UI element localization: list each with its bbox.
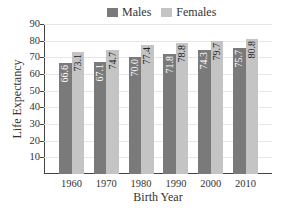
y-tick-label: 50 bbox=[20, 86, 40, 96]
y-tick bbox=[40, 41, 44, 42]
x-tick-label: 2010 bbox=[231, 178, 261, 189]
bar-value-label: 80.8 bbox=[247, 41, 257, 59]
y-tick-label: 30 bbox=[20, 119, 40, 129]
legend-label: Males bbox=[122, 6, 151, 18]
y-tick bbox=[40, 124, 44, 125]
y-tick bbox=[40, 141, 44, 142]
x-axis-title: Birth Year bbox=[44, 191, 272, 204]
x-tick-label: 1990 bbox=[161, 178, 191, 189]
y-tick bbox=[40, 157, 44, 158]
y-tick-label: 80 bbox=[20, 36, 40, 46]
bar-value-label: 66.6 bbox=[60, 65, 70, 83]
bar-females-2010: 80.8 bbox=[246, 39, 259, 174]
bar-males-2010: 75.7 bbox=[233, 48, 246, 174]
y-tick bbox=[40, 24, 44, 25]
bar-females-1970: 74.7 bbox=[106, 50, 119, 175]
x-tick-label: 1980 bbox=[126, 178, 156, 189]
y-tick-label: 70 bbox=[20, 52, 40, 62]
y-tick-label: 20 bbox=[20, 136, 40, 146]
bar-females-1960: 73.1 bbox=[72, 52, 85, 174]
bar-value-label: 79.7 bbox=[212, 43, 222, 61]
gridline bbox=[44, 41, 272, 42]
bar-males-1980: 70.0 bbox=[129, 57, 142, 174]
legend-item-males: Males bbox=[107, 6, 151, 18]
bar-value-label: 74.3 bbox=[199, 52, 209, 70]
gridline bbox=[44, 24, 272, 25]
plot-area: 10203040506070809066.673.167.174.770.077… bbox=[44, 24, 272, 174]
x-tick-label: 1960 bbox=[57, 178, 87, 189]
bar-value-label: 78.8 bbox=[177, 45, 187, 63]
legend-item-females: Females bbox=[161, 6, 216, 18]
bar-value-label: 71.8 bbox=[165, 56, 175, 74]
y-tick-label: 40 bbox=[20, 102, 40, 112]
bar-value-label: 75.7 bbox=[234, 50, 244, 68]
bar-females-2000: 79.7 bbox=[211, 41, 224, 174]
legend-label: Females bbox=[176, 6, 216, 18]
y-tick-label: 60 bbox=[20, 69, 40, 79]
y-tick bbox=[40, 57, 44, 58]
bar-value-label: 67.1 bbox=[95, 64, 105, 82]
bar-males-1970: 67.1 bbox=[94, 62, 107, 174]
y-tick-label: 90 bbox=[20, 19, 40, 29]
y-tick bbox=[40, 74, 44, 75]
bar-males-1990: 71.8 bbox=[163, 54, 176, 174]
x-tick-label: 1970 bbox=[91, 178, 121, 189]
bar-females-1980: 77.4 bbox=[141, 45, 154, 174]
bar-value-label: 70.0 bbox=[130, 59, 140, 77]
bar-value-label: 74.7 bbox=[108, 52, 118, 70]
legend: MalesFemales bbox=[107, 6, 226, 18]
y-tick bbox=[40, 107, 44, 108]
legend-swatch bbox=[161, 8, 172, 17]
x-tick-label: 2000 bbox=[196, 178, 226, 189]
legend-swatch bbox=[107, 8, 118, 17]
bar-males-2000: 74.3 bbox=[198, 50, 211, 174]
bar-value-label: 77.4 bbox=[142, 47, 152, 65]
y-tick bbox=[40, 91, 44, 92]
bar-value-label: 73.1 bbox=[73, 54, 83, 72]
y-axis-line bbox=[44, 24, 45, 174]
bar-males-1960: 66.6 bbox=[59, 63, 72, 174]
bar-females-1990: 78.8 bbox=[176, 43, 189, 174]
y-tick-label: 10 bbox=[20, 152, 40, 162]
